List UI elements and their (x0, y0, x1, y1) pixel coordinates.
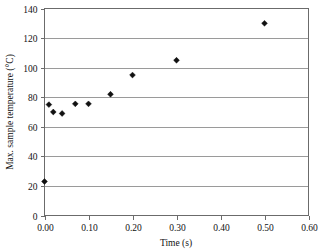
y-axis-tick-label: 20 (28, 182, 38, 192)
y-axis-tick-label: 120 (23, 34, 38, 44)
data-point (42, 179, 48, 185)
data-point (72, 101, 78, 107)
x-axis-tick-label: 0.60 (301, 223, 318, 233)
y-axis-tick-label: 40 (28, 152, 38, 162)
y-axis-tick-label: 140 (23, 5, 38, 15)
y-axis-tick-labels-group: 020406080100120140 (23, 5, 38, 222)
data-point (108, 91, 114, 97)
x-axis-title: Time (s) (160, 238, 192, 249)
y-axis-title: Max. sample temperature (°C) (5, 54, 16, 170)
data-point (174, 57, 180, 63)
x-axis-tick-label: 0.40 (213, 223, 230, 233)
y-axis-tick-label: 60 (28, 123, 38, 133)
data-point (59, 111, 65, 117)
y-axis-tick-label: 0 (33, 212, 38, 222)
x-axis-tick-label: 0.00 (37, 223, 54, 233)
x-axis-tick-label: 0.50 (257, 223, 274, 233)
data-point (130, 72, 136, 78)
data-point (86, 101, 92, 107)
scatter-plot: 020406080100120140 0.000.100.200.300.400… (0, 0, 318, 250)
y-axis-tick-label: 100 (23, 64, 38, 74)
x-axis-tick-label: 0.30 (169, 223, 186, 233)
chart-figure: 020406080100120140 0.000.100.200.300.400… (0, 0, 318, 250)
data-point (262, 20, 268, 26)
data-point (50, 109, 56, 115)
x-axis-tick-label: 0.20 (125, 223, 142, 233)
y-axis-tick-label: 80 (28, 93, 38, 103)
plot-frame (45, 9, 309, 216)
x-axis-tick-labels-group: 0.000.100.200.300.400.500.60 (37, 223, 318, 233)
data-points-group (42, 20, 268, 184)
data-point (46, 102, 52, 108)
x-axis-ticks-group (46, 216, 310, 220)
x-axis-tick-label: 0.10 (81, 223, 98, 233)
